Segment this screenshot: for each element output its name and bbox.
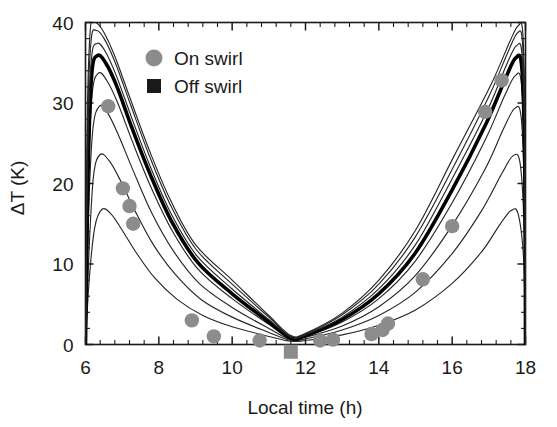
data-point-on-swirl [116,181,130,195]
x-tick-label: 16 [442,357,463,378]
data-point-on-swirl [381,316,395,330]
y-axis-title: ΔT (K) [7,161,28,216]
x-tick-label: 18 [515,357,536,378]
data-point-on-swirl [326,332,340,346]
data-point-on-swirl [494,73,508,87]
y-tick-label: 10 [52,254,73,275]
legend-marker-on-swirl-circle-icon [146,50,163,67]
off-swirl-data-points [284,345,298,359]
legend-label-on-swirl: On swirl [174,48,243,69]
y-tick-label: 30 [52,93,73,114]
x-axis-title: Local time (h) [247,397,362,418]
x-tick-label: 12 [295,357,316,378]
x-tick-label: 14 [368,357,390,378]
x-tick-label: 8 [154,357,165,378]
x-tick-label: 6 [80,357,91,378]
data-point-on-swirl [416,272,430,286]
legend-label-off-swirl: Off swirl [174,76,242,97]
legend-marker-off-swirl-square-icon [147,79,161,93]
data-point-on-swirl [122,199,136,213]
y-tick-label: 20 [52,174,73,195]
data-point-off-swirl [284,345,298,359]
data-point-on-swirl [207,329,221,343]
data-point-on-swirl [185,313,199,327]
data-point-on-swirl [445,219,459,233]
delta-t-vs-local-time-chart: 681012141618 010203040 Local time (h) ΔT… [0,0,557,427]
y-tick-label: 40 [52,13,73,34]
data-point-on-swirl [252,333,266,347]
data-point-on-swirl [313,333,327,347]
data-point-on-swirl [126,217,140,231]
x-tick-label: 10 [222,357,243,378]
data-point-on-swirl [478,105,492,119]
data-point-on-swirl [101,99,115,113]
y-tick-label: 0 [63,335,74,356]
